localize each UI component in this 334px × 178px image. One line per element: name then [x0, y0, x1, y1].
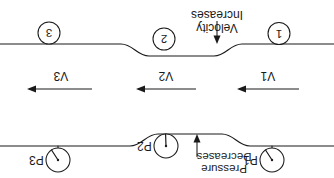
flow-arrow-v2-group: V2: [136, 69, 196, 92]
venturi-diagram-svg: 1 2 3 V1 V2: [0, 0, 334, 178]
section-marker-1: 1: [268, 23, 290, 45]
pressure-gauge-p3-hub: [57, 159, 59, 161]
pressure-gauge-p3: P3: [29, 146, 70, 172]
annotation-velocity-arrowhead: [214, 36, 221, 45]
annotation-velocity-line1: Velocity: [196, 21, 237, 35]
velocity-label-v1: V1: [260, 69, 275, 83]
pressure-gauge-p3-label: P3: [29, 153, 44, 167]
pressure-gauge-p1-hub: [271, 159, 273, 161]
annotation-pressure-line1: Pressure: [201, 163, 247, 175]
section-3-label: 3: [46, 27, 52, 39]
annotation-velocity-line2: Increases: [191, 8, 243, 22]
flow-arrow-v1-group: V1: [237, 69, 299, 92]
velocity-label-v2: V2: [158, 69, 173, 83]
pressure-gauge-p2-label: P2: [137, 139, 152, 153]
section-1-label: 1: [276, 28, 282, 40]
annotation-pressure-decreases: Pressure Decreases: [194, 134, 252, 175]
figure-rotation-wrapper: 1 2 3 V1 V2: [0, 0, 334, 178]
annotation-pressure-arrowhead: [194, 134, 201, 143]
pressure-gauge-p2: P2: [137, 134, 178, 158]
section-marker-2: 2: [153, 28, 175, 50]
flow-arrow-v3-head: [27, 86, 36, 93]
pressure-gauge-p2-hub: [165, 145, 167, 147]
annotation-velocity-increases: Velocity Increases: [191, 8, 243, 44]
flow-arrow-v3-group: V3: [27, 69, 92, 92]
diagram-canvas: 1 2 3 V1 V2: [0, 0, 334, 178]
flow-arrow-v1-head: [237, 86, 246, 93]
annotation-pressure-line2: Decreases: [196, 151, 251, 163]
velocity-label-v3: V3: [53, 69, 68, 83]
section-marker-3: 3: [38, 22, 60, 44]
flow-arrow-v2-head: [136, 86, 145, 93]
section-2-label: 2: [161, 33, 167, 45]
